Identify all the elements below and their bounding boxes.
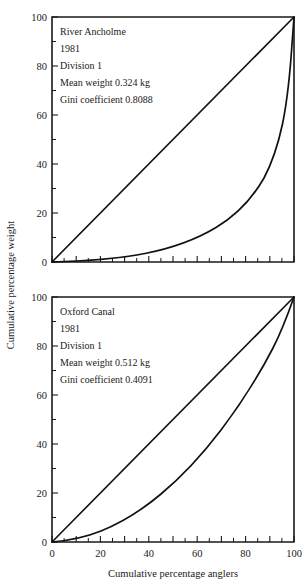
y-tick-labels-1: 0 20 40 60 80 100: [31, 12, 47, 268]
panel-oxford-canal: 0 20 40 60 80 100 0 20 40 60 80 100: [31, 292, 302, 559]
annotation-site-2: Oxford Canal: [60, 306, 115, 317]
y-tick-label-80-2: 80: [37, 341, 48, 352]
x-axis-title: Cumulative percentage anglers: [108, 568, 238, 579]
y-tick-label-20-2: 20: [37, 488, 48, 499]
x-tick-label-20: 20: [95, 548, 106, 559]
y-tick-label-0: 0: [42, 257, 47, 268]
y-tick-label-100: 100: [31, 12, 47, 23]
x-ticks-2: [52, 536, 294, 542]
x-tick-labels-2: 0 20 40 60 80 100: [49, 548, 302, 559]
figure-svg: Cumulative percentage weight: [0, 0, 308, 584]
annotation-division-1: Division 1: [60, 60, 102, 71]
y-tick-labels-2: 0 20 40 60 80 100: [31, 292, 47, 548]
y-tick-label-0-2: 0: [42, 537, 47, 548]
panel-river-ancholme: 0 20 40 60 80 100 River Ancholme 1981 Di…: [31, 12, 294, 268]
annotation-year-2: 1981: [60, 323, 80, 334]
x-tick-label-80: 80: [240, 548, 251, 559]
y-axis-title: Cumulative percentage weight: [5, 221, 16, 349]
annotation-mean-weight-2: Mean weight 0.512 kg: [60, 357, 150, 368]
line-of-equality-2: [52, 297, 294, 542]
annotation-mean-weight-1: Mean weight 0.324 kg: [60, 77, 150, 88]
y-tick-label-100-2: 100: [31, 292, 47, 303]
lorenz-curve-figure: Cumulative percentage weight: [0, 0, 308, 584]
annotation-block-1: River Ancholme 1981 Division 1 Mean weig…: [60, 26, 153, 105]
annotation-gini-2: Gini coefficient 0.4091: [60, 374, 153, 385]
x-tick-label-60: 60: [192, 548, 203, 559]
annotation-division-2: Division 1: [60, 340, 102, 351]
x-tick-label-0: 0: [49, 548, 54, 559]
y-tick-label-60: 60: [37, 110, 48, 121]
annotation-year-1: 1981: [60, 43, 80, 54]
y-tick-label-40-2: 40: [37, 439, 48, 450]
y-tick-label-20: 20: [37, 208, 48, 219]
line-of-equality-1: [52, 17, 294, 262]
y-tick-label-80: 80: [37, 61, 48, 72]
annotation-site-1: River Ancholme: [60, 26, 126, 37]
y-tick-label-60-2: 60: [37, 390, 48, 401]
y-tick-label-40: 40: [37, 159, 48, 170]
x-tick-label-100: 100: [286, 548, 302, 559]
x-tick-label-40: 40: [144, 548, 155, 559]
annotation-gini-1: Gini coefficient 0.8088: [60, 94, 153, 105]
annotation-block-2: Oxford Canal 1981 Division 1 Mean weight…: [60, 306, 153, 385]
